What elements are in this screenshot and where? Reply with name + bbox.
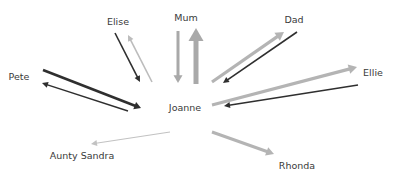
arrow-joanne-to-ellie — [212, 65, 357, 106]
arrow-shaft — [227, 32, 297, 80]
node-ellie: Ellie — [363, 68, 383, 78]
arrow-shaft — [130, 39, 152, 82]
arrow-shaft — [115, 33, 138, 78]
arrow-dad-to-joanne — [223, 32, 297, 83]
arrow-shaft — [212, 36, 278, 82]
relationship-diagram: Joanne Mum Elise Dad Pete Ellie Aunty Sa… — [0, 0, 393, 183]
node-aunty-sandra: Aunty Sandra — [50, 151, 115, 161]
arrow-shaft — [96, 132, 170, 143]
node-dad: Dad — [284, 15, 303, 25]
arrowhead-icon — [174, 75, 183, 83]
arrow-elise-to-joanne — [115, 33, 140, 82]
arrowhead-icon — [189, 28, 204, 41]
arrowhead-icon — [42, 82, 49, 88]
node-rhonda: Rhonda — [279, 161, 315, 171]
arrow-pete-to-joanne — [43, 70, 141, 109]
arrow-joanne-to-rhonda — [212, 132, 274, 156]
arrow-shaft — [212, 69, 350, 105]
arrowhead-icon — [348, 65, 357, 74]
node-mum: Mum — [174, 13, 197, 23]
arrow-joanne-to-aunty_sandra — [91, 132, 170, 146]
arrow-joanne-to-elise — [128, 35, 152, 82]
arrowhead-icon — [91, 140, 97, 146]
arrow-shaft — [212, 132, 268, 152]
arrow-joanne-to-mum — [189, 28, 204, 84]
node-pete: Pete — [9, 72, 30, 82]
node-elise: Elise — [107, 17, 129, 27]
arrow-mum-to-joanne — [174, 31, 183, 83]
arrow-joanne-to-dad — [212, 32, 284, 82]
node-joanne: Joanne — [169, 103, 201, 113]
